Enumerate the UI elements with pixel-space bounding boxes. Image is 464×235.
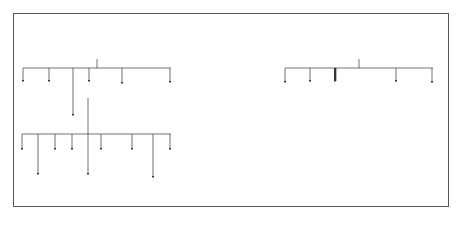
- connector-lines: [0, 0, 464, 235]
